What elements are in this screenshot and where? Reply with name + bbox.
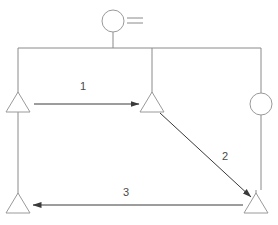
edge-2-label: 2	[222, 150, 228, 162]
edge-2-group: 2	[160, 113, 251, 197]
triangle-bottom-right	[244, 193, 268, 213]
edge-3-label: 3	[123, 186, 129, 198]
source-node-group	[102, 10, 143, 32]
schematic-diagram: 1 2 3	[0, 0, 278, 225]
equals-marks-icon	[127, 18, 143, 23]
source-circle	[102, 10, 124, 32]
triangle-bottom-left	[6, 193, 30, 213]
arrow-center-to-bottom-right	[160, 113, 251, 197]
triangle-center	[140, 92, 164, 112]
edge-1-group: 1	[34, 80, 139, 104]
edge-1-label: 1	[80, 80, 86, 92]
triangle-left	[6, 92, 30, 112]
diagram-canvas: 1 2 3	[0, 0, 278, 225]
edge-3-group: 3	[33, 186, 243, 205]
circle-right	[250, 93, 272, 115]
